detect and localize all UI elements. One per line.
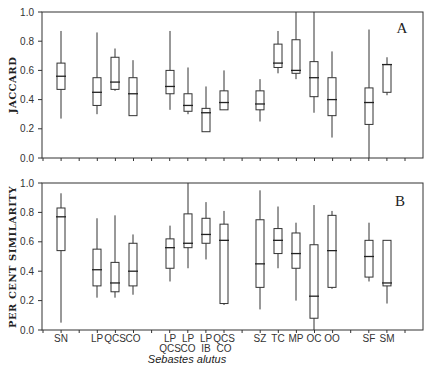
iqr-box	[202, 108, 210, 131]
iqr-box	[184, 214, 192, 248]
box-mp	[291, 12, 301, 79]
panel-a: A JACCARD 0.00.20.40.60.81.0	[7, 7, 423, 164]
x-category-label: SM	[380, 333, 395, 344]
box-oc	[309, 205, 319, 330]
iqr-box	[111, 57, 119, 89]
panel-a-ylabel: JACCARD	[7, 57, 18, 115]
iqr-box	[184, 94, 192, 112]
x-category-label: OC	[307, 333, 322, 344]
panel-b: B PER CENT SIMILARITY 0.00.20.40.60.81.0	[7, 178, 423, 336]
y-tick-label: 0.2	[20, 123, 34, 134]
box-qcs-co	[219, 70, 229, 109]
box-sf	[364, 223, 374, 282]
box-qcs	[110, 215, 120, 297]
iqr-box	[310, 62, 318, 97]
box-sf	[364, 30, 374, 158]
iqr-box	[274, 44, 282, 67]
x-axis-title: Sebastes alutus	[148, 353, 227, 365]
box-tc	[273, 207, 283, 269]
iqr-box	[292, 40, 300, 74]
x-category-label: LP	[91, 333, 104, 344]
iqr-box	[383, 65, 391, 93]
x-category-labels: SNLPQCSCOLPQCSLPCOLPIBQCSCOSZTCMPOCOOSFS…	[54, 333, 394, 354]
x-category-label: SN	[54, 333, 68, 344]
iqr-box	[202, 218, 210, 243]
panel-b-ylabel: PER CENT SIMILARITY	[7, 186, 18, 328]
iqr-box	[57, 208, 65, 251]
box-lp	[92, 218, 102, 297]
iqr-box	[129, 78, 137, 116]
x-category-label: SZ	[254, 333, 267, 344]
box-co	[128, 60, 138, 115]
box-plot-figure: A JACCARD 0.00.20.40.60.81.0 B PER CENT …	[0, 0, 431, 371]
iqr-box	[220, 224, 228, 303]
iqr-box	[256, 91, 264, 110]
box-lp	[92, 32, 102, 114]
box-lp-ib	[201, 202, 211, 259]
iqr-box	[220, 91, 228, 110]
panel-b-boxes	[56, 183, 392, 330]
iqr-box	[365, 88, 373, 125]
iqr-box	[129, 243, 137, 286]
y-tick-label: 1.0	[20, 7, 34, 18]
box-tc	[273, 31, 283, 73]
x-category-label: CO	[126, 333, 141, 344]
box-sz	[255, 190, 265, 309]
box-sn	[56, 31, 66, 119]
box-lp-qcs	[165, 31, 175, 110]
iqr-box	[328, 78, 336, 116]
panel-b-yaxis: 0.00.20.40.60.81.0	[20, 178, 42, 336]
x-category-label: MP	[289, 333, 304, 344]
box-sn	[56, 193, 66, 322]
iqr-box	[93, 78, 101, 106]
y-tick-label: 0.2	[20, 295, 34, 306]
y-tick-label: 0.0	[20, 325, 34, 336]
y-tick-label: 0.6	[20, 65, 34, 76]
box-oo	[327, 51, 337, 137]
x-category-label: SF	[363, 333, 376, 344]
box-lp-co	[183, 183, 193, 268]
panel-a-xticks	[43, 158, 405, 161]
iqr-box	[328, 215, 336, 287]
box-oc	[309, 12, 319, 113]
box-sm	[382, 57, 392, 95]
iqr-box	[256, 220, 264, 288]
y-tick-label: 0.6	[20, 236, 34, 247]
panel-a-yaxis: 0.00.20.40.60.81.0	[20, 7, 42, 164]
iqr-box	[310, 245, 318, 318]
panel-a-letter: A	[397, 20, 408, 36]
iqr-box	[292, 233, 300, 268]
x-category-label: OO	[324, 333, 340, 344]
box-co	[128, 234, 138, 294]
y-tick-label: 0.8	[20, 36, 34, 47]
y-tick-label: 0.8	[20, 207, 34, 218]
iqr-box	[93, 249, 101, 286]
iqr-box	[365, 240, 373, 277]
box-sm	[382, 240, 392, 303]
iqr-box	[383, 240, 391, 286]
y-tick-label: 0.4	[20, 94, 34, 105]
panel-b-letter: B	[395, 193, 405, 209]
y-tick-label: 1.0	[20, 178, 34, 189]
panel-a-boxes	[56, 12, 392, 158]
box-qcs-co	[219, 211, 229, 305]
box-sz	[255, 79, 265, 121]
iqr-box	[166, 70, 174, 93]
box-lp-ib	[201, 86, 211, 131]
x-category-label: QCS	[104, 333, 126, 344]
box-qcs	[110, 49, 120, 91]
iqr-box	[111, 262, 119, 291]
box-lp-qcs	[165, 226, 175, 282]
box-lp-co	[183, 67, 193, 114]
box-oo	[327, 211, 337, 289]
y-tick-label: 0.4	[20, 266, 34, 277]
x-category-label: TC	[271, 333, 284, 344]
iqr-box	[166, 239, 174, 268]
iqr-box	[274, 229, 282, 254]
box-mp	[291, 223, 301, 301]
y-tick-label: 0.0	[20, 153, 34, 164]
